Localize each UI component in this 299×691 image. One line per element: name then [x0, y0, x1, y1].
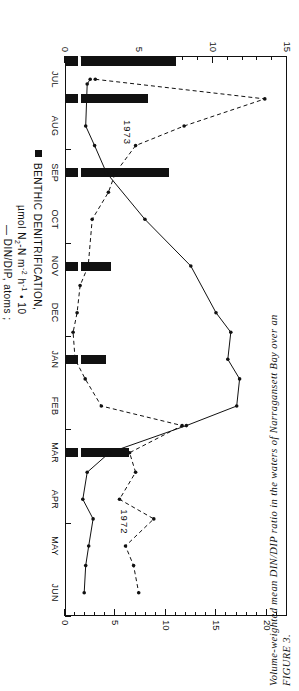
data-point-marker	[78, 284, 82, 288]
data-point-marker	[128, 451, 132, 455]
data-point-marker	[114, 171, 118, 175]
data-point-marker	[137, 591, 141, 595]
series-lines	[65, 56, 287, 616]
data-point-marker	[105, 171, 109, 175]
data-point-marker	[182, 124, 186, 128]
units-part-3: h	[16, 275, 27, 284]
axis-month-label: FEB	[50, 397, 60, 415]
axis-month-label: OCT	[50, 209, 60, 229]
axis-month-label: AUG	[50, 116, 60, 136]
axis-month-tick	[65, 616, 71, 617]
plot-area: 051015 05101520 JULAUGSEPOCTNOVDECJANFEB…	[65, 56, 287, 616]
axis-month-label: DEC	[50, 303, 60, 323]
data-point-marker	[81, 498, 85, 502]
axis-month-label: JUN	[50, 583, 60, 601]
axis-title-denitrification: BENTHIC DENITRIFICATION,	[32, 150, 43, 310]
data-point-marker	[132, 564, 136, 568]
data-point-marker	[91, 517, 95, 521]
data-point-marker	[263, 97, 267, 101]
units-exp-minus1: -1	[21, 285, 28, 292]
axis-right-tick-label: 0	[61, 620, 70, 642]
data-point-marker	[152, 517, 156, 521]
axis-month-label: APR	[50, 490, 60, 509]
data-point-marker	[86, 264, 90, 268]
axis-month-label: JAN	[50, 350, 60, 368]
data-point-marker	[94, 78, 98, 82]
data-point-marker	[87, 544, 91, 548]
axis-right-tick-label: 5	[111, 620, 120, 642]
axis-right-tick-label: 15	[212, 620, 221, 642]
data-point-marker	[229, 331, 233, 335]
year-label-1972: 1972	[119, 509, 130, 534]
data-point-marker	[134, 471, 138, 475]
units-part-4: • 10	[16, 292, 27, 315]
caption-figure-number: FIGURE 3.	[281, 634, 292, 686]
data-point-marker	[235, 404, 239, 408]
axis-month-label: SEP	[50, 163, 60, 182]
data-point-marker	[84, 564, 88, 568]
axis-left-tick-label: 5	[135, 32, 144, 52]
data-point-marker	[75, 311, 79, 315]
axis-month-label: MAY	[50, 536, 60, 556]
data-point-marker	[85, 82, 89, 86]
year-label-1973: 1973	[122, 120, 133, 145]
data-point-marker	[83, 377, 87, 381]
data-point-marker	[180, 424, 184, 428]
axis-month-label: JUL	[50, 71, 60, 88]
caption-text: Volume-weighted mean DIN/DIP ratio in th…	[268, 314, 279, 686]
chlorophyll-line	[73, 79, 265, 592]
data-point-marker	[100, 404, 104, 408]
denitrification-title-text: BENTHIC DENITRIFICATION,	[32, 163, 43, 310]
units-part-2: -N m	[16, 244, 27, 268]
data-point-marker	[108, 451, 112, 455]
units-part-1: µmol N	[16, 205, 27, 240]
data-point-marker	[90, 218, 94, 222]
din-dip-line	[83, 79, 240, 592]
data-point-marker	[143, 218, 147, 222]
data-point-marker	[107, 191, 111, 195]
data-point-marker	[71, 331, 75, 335]
axis-left-tick-label: 15	[283, 32, 292, 52]
axis-right-tick-label: 10	[162, 620, 171, 642]
data-point-marker	[73, 358, 77, 362]
data-point-marker	[85, 471, 89, 475]
data-point-marker	[124, 544, 128, 548]
data-point-marker	[82, 591, 86, 595]
data-point-marker	[238, 377, 242, 381]
data-point-marker	[88, 78, 92, 82]
data-point-marker	[214, 311, 218, 315]
data-point-marker	[185, 424, 189, 428]
data-point-marker	[84, 124, 88, 128]
axis-month-label: MAR	[50, 442, 60, 463]
axis-month-label: NOV	[50, 256, 60, 276]
axis-left-tick-label: 0	[61, 32, 70, 52]
data-point-marker	[93, 144, 97, 148]
filled-square-icon	[35, 150, 42, 157]
legend-din-dip: — DIN/DIP, atoms ;	[2, 225, 13, 321]
axis-left-tick-label: 10	[209, 32, 218, 52]
data-point-marker	[134, 144, 138, 148]
figure-rotated-canvas: 051015 05101520 JULAUGSEPOCTNOVDECJANFEB…	[0, 0, 299, 691]
axis-units-denitrification: µmol N2-N m-2 h-1 • 10	[14, 205, 28, 314]
data-point-marker	[226, 358, 230, 362]
data-point-marker	[189, 264, 193, 268]
data-point-marker	[118, 498, 122, 502]
